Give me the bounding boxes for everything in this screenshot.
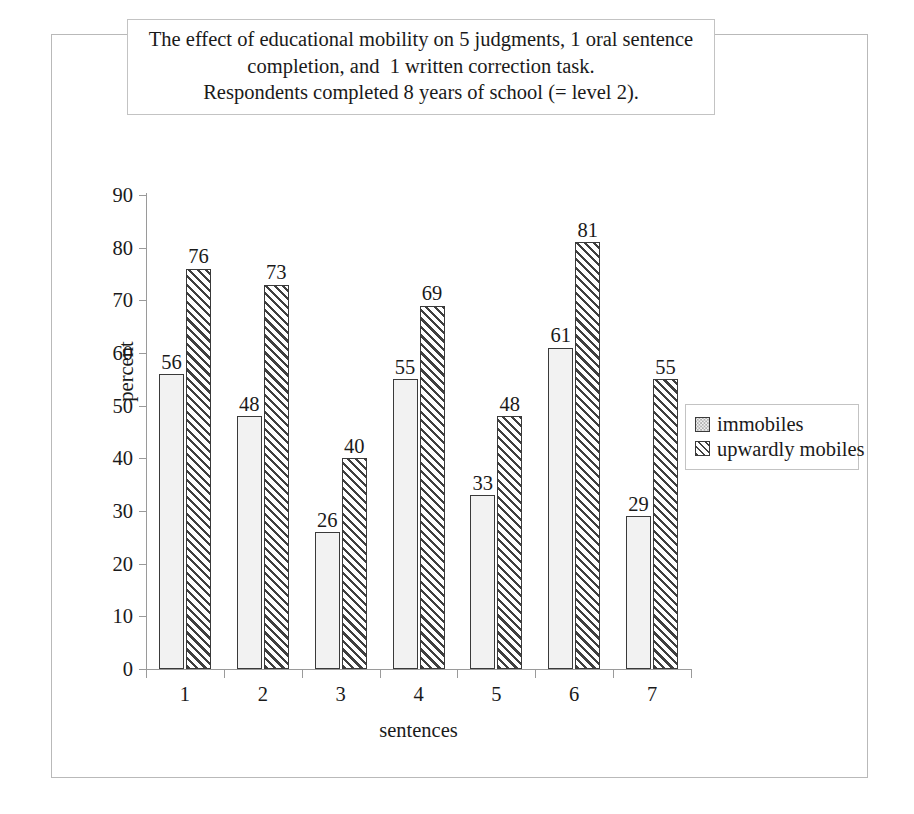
bar-value-label: 26 xyxy=(317,510,338,531)
title-line-2: completion, and 1 written correction tas… xyxy=(136,53,706,80)
y-tick-mark xyxy=(139,564,147,565)
y-tick-mark xyxy=(139,406,147,407)
y-tick-mark xyxy=(139,616,147,617)
x-tick-mark xyxy=(224,669,225,678)
legend-swatch-upwardly-mobiles-icon xyxy=(695,441,710,456)
bar[interactable]: 26 xyxy=(315,532,340,669)
bar-value-label: 33 xyxy=(473,473,494,494)
bar[interactable]: 48 xyxy=(497,416,522,669)
y-tick-label: 80 xyxy=(91,237,133,258)
chart-frame: 0102030405060708090 percent 567648732640… xyxy=(51,34,868,778)
bar-value-label: 55 xyxy=(395,357,416,378)
y-tick-mark xyxy=(139,300,147,301)
y-tick-label: 30 xyxy=(91,501,133,522)
bar-value-label: 29 xyxy=(628,494,649,515)
y-tick-label: 10 xyxy=(91,606,133,627)
y-tick-label: 0 xyxy=(91,659,133,680)
bar[interactable]: 76 xyxy=(186,269,211,669)
legend-item[interactable]: immobiles xyxy=(695,412,849,437)
bar[interactable]: 55 xyxy=(393,379,418,669)
legend-item[interactable]: upwardly mobiles xyxy=(695,437,849,462)
x-tick-mark xyxy=(380,669,381,678)
x-tick-label: 7 xyxy=(617,683,687,706)
y-tick-label: 20 xyxy=(91,553,133,574)
x-tick-label: 5 xyxy=(461,683,531,706)
bar-value-label: 73 xyxy=(266,262,287,283)
title-line-3: Respondents completed 8 years of school … xyxy=(136,79,706,106)
x-axis-line xyxy=(146,669,691,670)
x-tick-label: 6 xyxy=(539,683,609,706)
bar-value-label: 61 xyxy=(550,325,571,346)
bar-value-label: 69 xyxy=(422,283,443,304)
bar[interactable]: 33 xyxy=(470,495,495,669)
x-tick-mark xyxy=(535,669,536,678)
bar-value-label: 55 xyxy=(655,357,676,378)
bar-value-label: 56 xyxy=(161,352,182,373)
bar[interactable]: 61 xyxy=(548,348,573,669)
x-tick-label: 1 xyxy=(150,683,220,706)
bar-value-label: 76 xyxy=(188,246,209,267)
bar-value-label: 48 xyxy=(239,394,260,415)
y-tick-mark xyxy=(139,458,147,459)
y-tick-label: 90 xyxy=(91,185,133,206)
bar[interactable]: 69 xyxy=(420,306,445,669)
x-axis-title: sentences xyxy=(146,719,691,742)
bar-value-label: 40 xyxy=(344,436,365,457)
bar[interactable]: 40 xyxy=(342,458,367,669)
bar[interactable]: 29 xyxy=(626,516,651,669)
title-line-1: The effect of educational mobility on 5 … xyxy=(136,26,706,53)
bar-value-label: 48 xyxy=(500,394,521,415)
bar-value-label: 81 xyxy=(577,220,598,241)
x-tick-label: 2 xyxy=(228,683,298,706)
x-tick-mark xyxy=(302,669,303,678)
x-tick-mark xyxy=(146,669,147,678)
x-tick-mark xyxy=(691,669,692,678)
y-tick-mark xyxy=(139,195,147,196)
bar[interactable]: 55 xyxy=(653,379,678,669)
x-tick-mark xyxy=(613,669,614,678)
bar[interactable]: 48 xyxy=(237,416,262,669)
y-tick-mark xyxy=(139,353,147,354)
legend-swatch-immobiles-icon xyxy=(695,417,710,432)
y-tick-mark xyxy=(139,511,147,512)
y-tick-mark xyxy=(139,248,147,249)
bar[interactable]: 56 xyxy=(159,374,184,669)
legend-label: immobiles xyxy=(717,412,804,437)
y-axis-line xyxy=(146,193,147,671)
bar[interactable]: 81 xyxy=(575,242,600,669)
y-axis-title: percent xyxy=(115,292,138,452)
chart-title-box: The effect of educational mobility on 5 … xyxy=(127,19,715,115)
x-tick-mark xyxy=(457,669,458,678)
legend-label: upwardly mobiles xyxy=(717,437,864,462)
legend: immobiles upwardly mobiles xyxy=(685,404,859,470)
x-tick-label: 4 xyxy=(384,683,454,706)
x-tick-label: 3 xyxy=(306,683,376,706)
bar[interactable]: 73 xyxy=(264,285,289,669)
